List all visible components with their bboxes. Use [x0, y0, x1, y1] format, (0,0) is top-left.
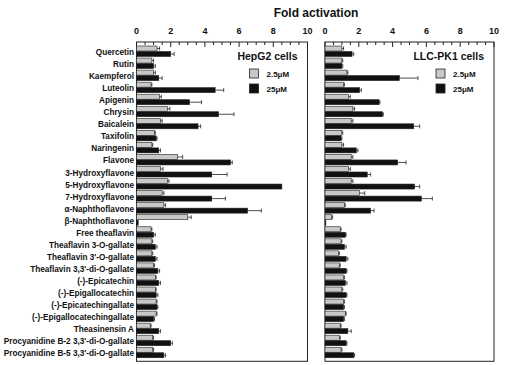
bar — [137, 172, 212, 177]
category-label: Baicalein — [98, 120, 134, 129]
bar — [137, 130, 155, 135]
bar — [137, 317, 154, 322]
bar — [137, 184, 282, 189]
bar — [325, 329, 348, 334]
category-label: Theaflavin 3,3'-di-O-gallate — [30, 265, 134, 274]
bar — [137, 136, 157, 141]
bar — [325, 136, 341, 141]
bar — [137, 341, 171, 346]
category-label: Chrysin — [104, 108, 134, 117]
bar — [137, 148, 159, 153]
bar — [325, 275, 344, 280]
bar — [137, 220, 139, 225]
bar — [137, 347, 153, 352]
bar — [137, 76, 159, 81]
bar — [137, 251, 152, 256]
bar — [137, 256, 156, 261]
legend-swatch — [436, 69, 445, 78]
category-label: (-)-Epigallocatechin — [58, 289, 134, 298]
category-label: β-Naphthoflavone — [64, 217, 134, 226]
chart-title: Fold activation — [274, 6, 359, 20]
x-tick-label: 0 — [322, 26, 327, 36]
category-label: 5-Hydroxyflavone — [65, 181, 134, 190]
bar — [325, 179, 351, 184]
bar — [325, 311, 345, 316]
x-tick-label: 2 — [168, 26, 173, 36]
bar — [137, 263, 154, 268]
bar — [325, 323, 340, 328]
bar — [137, 305, 158, 310]
bar — [137, 94, 160, 99]
category-label: Free theaflavin — [76, 229, 134, 238]
bar — [325, 118, 351, 123]
category-label: Luteolin — [102, 84, 134, 93]
legend-swatch — [250, 69, 259, 78]
bar — [137, 335, 153, 340]
category-label: Taxifolin — [101, 132, 134, 141]
bar — [137, 353, 164, 358]
bar — [137, 293, 157, 298]
bar — [325, 184, 415, 189]
bar — [137, 299, 157, 304]
category-label: Rutin — [113, 60, 134, 69]
bar — [137, 208, 248, 213]
category-label: Kaempferol — [89, 72, 134, 81]
panel-title: HepG2 cells — [237, 50, 297, 62]
category-label: Apigenin — [99, 96, 134, 105]
bar — [325, 208, 371, 213]
legend-swatch — [250, 84, 259, 93]
bar — [325, 52, 352, 57]
legend-label: 25μM — [267, 85, 288, 94]
x-tick-label: 8 — [271, 26, 276, 36]
bar — [137, 82, 152, 87]
bar — [325, 341, 346, 346]
bar — [325, 256, 346, 261]
bar — [325, 88, 360, 93]
panel-title: LLC-PK1 cells — [413, 50, 484, 62]
bar — [137, 64, 154, 69]
bar — [325, 154, 351, 159]
bar — [325, 280, 345, 285]
bar — [325, 244, 344, 249]
bar — [325, 347, 341, 352]
category-label: Procyanidine B-2 3,3'-di-O-gallate — [4, 337, 135, 346]
x-tick-label: 8 — [458, 26, 463, 36]
x-tick-label: 6 — [424, 26, 429, 36]
panel-llc-pk1: 0246810LLC-PK1 cells2.5μM25μM — [322, 26, 499, 361]
x-tick-label: 6 — [237, 26, 242, 36]
category-labels: QuercetinRutinKaempferolLuteolinApigenin… — [4, 48, 135, 358]
bar — [325, 46, 342, 51]
bar — [137, 239, 152, 244]
bar — [325, 167, 349, 172]
bar — [137, 118, 161, 123]
bar — [325, 58, 342, 63]
bar — [325, 112, 382, 117]
bar — [325, 160, 398, 165]
bar — [137, 179, 168, 184]
bar — [137, 287, 156, 292]
bar — [325, 64, 342, 69]
bar — [137, 311, 157, 316]
bar — [325, 82, 344, 87]
bar — [137, 268, 158, 273]
bar — [325, 251, 339, 256]
bar — [325, 196, 421, 201]
category-label: Theaflavin 3'-O-gallate — [47, 253, 134, 262]
fold-activation-chart: Fold activation QuercetinRutinKaempferol… — [0, 0, 508, 365]
bar — [137, 124, 199, 129]
category-label: 7-Hydroxyflavone — [65, 193, 134, 202]
category-label: (-)-Epicatechin — [77, 277, 134, 286]
bar — [325, 353, 354, 358]
x-tick-label: 2 — [356, 26, 361, 36]
legend-swatch — [436, 84, 445, 93]
bar — [137, 329, 159, 334]
bar — [325, 287, 342, 292]
category-label: (-)-Epigallocatechingallate — [32, 313, 134, 322]
bar — [137, 323, 151, 328]
bar — [137, 52, 171, 57]
bar — [137, 167, 161, 172]
bar — [325, 130, 342, 135]
category-label: 3-Hydroxyflavone — [65, 169, 134, 178]
bar — [137, 46, 158, 51]
category-label: Theaflavin 3-O-gallate — [49, 241, 135, 250]
